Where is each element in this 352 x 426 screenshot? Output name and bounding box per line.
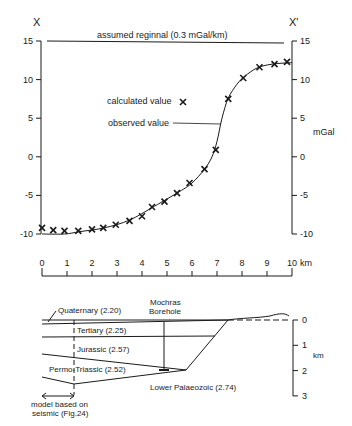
layer-label-lower-palaeozoic: Lower Palaeozoic (2.74) [150,383,237,392]
scale-tick-label: 9 [264,258,269,268]
scale-tick-label: 6 [189,258,194,268]
y-tick-label: -10 [300,229,313,239]
observed-leader-line [173,123,221,124]
layer-label-jurassic: Jurassic (2.57) [77,345,130,354]
regional-line [47,41,284,43]
quaternary-base [42,320,228,324]
depth-tick-label: 2 [302,366,307,376]
profile-start-label: X [33,16,41,28]
y-tick-label: 15 [23,36,33,46]
profile-end-label: X' [289,16,298,28]
x-marker-icon [240,75,246,81]
right-axis-ticks: 151050-5-10 [292,36,313,239]
y-tick-label: 0 [300,152,305,162]
borehole-label-1: Mochras [150,298,181,307]
gravity-chart: X X' 151050-5-10 151050-5-10 mGal assume… [20,16,335,239]
y-tick-label: 0 [28,152,33,162]
scale-tick-label: 3 [114,258,119,268]
scale-tick-label: 1 [64,258,69,268]
layer-label-quaternary: Quaternary (2.20) [58,306,121,315]
scale-tick-label: 8 [239,258,244,268]
depth-tick-label: 1 [302,340,307,350]
x-marker-icon [139,213,145,219]
permo-base-west [42,377,74,384]
legend-x-marker-icon [180,99,186,105]
scale-tick-label: 7 [214,258,219,268]
x-marker-icon [225,96,231,102]
scale-tick-label: 5 [164,258,169,268]
x-marker-icon [39,225,45,231]
y-tick-label: -5 [300,190,308,200]
scale-tick-label: 4 [139,258,144,268]
x-marker-icon [50,227,56,233]
depth-tick-label: 3 [302,391,307,401]
y-tick-label: 10 [23,75,33,85]
coast-profile [228,314,289,320]
scale-tick-label: 10 [287,258,297,268]
x-marker-icon [75,228,81,234]
x-marker-icon [284,59,290,65]
layer-label-tertiary: Tertiary (2.25) [77,326,127,335]
depth-unit: km [313,351,324,360]
y-tick-label: -10 [20,229,33,239]
y-tick-label: 5 [28,113,33,123]
x-marker-icon [62,228,68,234]
y-tick-label: 15 [300,36,310,46]
scale-unit: km [300,258,312,268]
model-note-2: seismic (Fig.24) [32,409,89,418]
x-marker-icon [202,166,208,172]
calculated-markers [39,59,290,234]
legend-observed-label: observed value [108,118,169,128]
legend-calculated-label: calculated value [107,96,172,106]
borehole-label-2: Borehole [149,307,182,316]
depth-tick-label: 0 [302,315,307,325]
tertiary-base [42,336,215,337]
layer-label-permo-triassic: Permo-Triassic (2.52) [49,365,126,374]
y-tick-label: 10 [300,75,310,85]
y-axis-unit-label: mGal [313,127,335,137]
x-marker-icon [213,147,219,153]
scale-tick-label: 0 [39,258,44,268]
figure: X X' 151050-5-10 151050-5-10 mGal assume… [0,0,352,426]
x-marker-icon [257,64,263,70]
fault-line [186,320,228,370]
model-note-1: model based on [31,400,88,409]
regional-label: assumed reginnal (0.3 mGal/km) [97,30,228,40]
x-marker-icon [174,190,180,196]
scale-bar: 012345678910 km [39,258,312,276]
left-axis-ticks: 151050-5-10 [20,36,41,239]
y-tick-label: -5 [25,190,33,200]
observed-curve [42,63,292,235]
scale-tick-label: 2 [89,258,94,268]
y-tick-label: 5 [300,113,305,123]
